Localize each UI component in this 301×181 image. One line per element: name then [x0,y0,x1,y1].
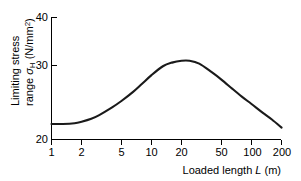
x-tick-label-20: 20 [175,146,187,158]
x-axis-title-main: Loaded length [183,164,253,176]
y-tick-label-30: 30 [36,59,48,71]
x-tick-label-10: 10 [145,146,157,158]
y-axis-title-range-word: range [23,75,35,106]
y-tick-label-40: 40 [36,11,48,23]
y-axis-title-line1: Limiting stress [9,35,21,106]
x-axis-title-unit: (m) [265,164,282,176]
y-tick-label-20: 20 [36,133,48,145]
chart-figure: 40 30 20 1 2 5 10 20 50 100 200 Loade [0,0,301,181]
x-tick-label-2: 2 [78,146,84,158]
y-axis-title-units-close: ) [23,18,35,22]
x-tick-label-100: 100 [243,146,261,158]
y-axis-title-line2: range σH (N/mm2) [23,18,37,106]
x-axis-title: Loaded length L (m) [183,164,281,176]
x-tick-label-50: 50 [215,146,227,158]
chart-svg: 40 30 20 1 2 5 10 20 50 100 200 Loade [0,0,301,181]
x-tick-label-200: 200 [273,146,291,158]
x-tick-label-5: 5 [118,146,124,158]
y-axis-title-units-open: (N/mm [23,26,35,62]
x-tick-label-1: 1 [48,146,54,158]
